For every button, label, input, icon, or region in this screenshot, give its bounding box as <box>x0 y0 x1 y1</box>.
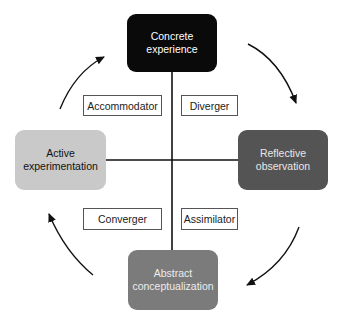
stage-label-line2: experimentation <box>23 160 98 173</box>
stage-label-line2: conceptualization <box>132 280 213 293</box>
stage-label-line1: Concrete <box>146 30 197 43</box>
stage-label-line1: Abstract <box>132 267 213 280</box>
stage-label-line2: experience <box>146 43 197 56</box>
style-accommodator: Accommodator <box>83 95 162 116</box>
arrow-reflective-to-abstract-icon <box>247 227 299 285</box>
stage-label-line1: Reflective <box>256 147 310 160</box>
stage-reflective-observation: Reflective observation <box>238 130 328 190</box>
style-assimilator: Assimilator <box>181 208 238 230</box>
stage-label-line1: Active <box>23 147 98 160</box>
stage-label-line2: observation <box>256 160 310 173</box>
kolb-learning-cycle-diagram: Concrete experience Reflective observati… <box>0 0 344 324</box>
style-diverger: Diverger <box>181 95 238 116</box>
arrow-concrete-to-reflective-icon <box>248 44 296 103</box>
style-converger: Converger <box>83 208 162 230</box>
stage-concrete-experience: Concrete experience <box>127 14 217 72</box>
stage-abstract-conceptualization: Abstract conceptualization <box>128 250 218 310</box>
stage-active-experimentation: Active experimentation <box>15 130 106 190</box>
